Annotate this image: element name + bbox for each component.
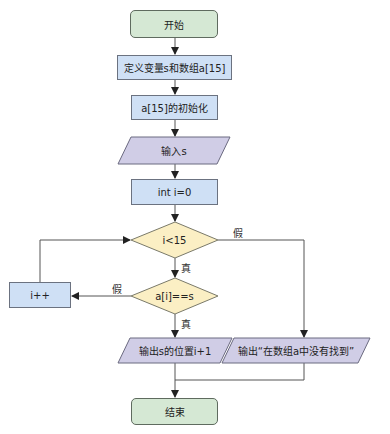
flowchart: 开始 定义变量s和数组a[15] a[15]的初始化 输入s int i=0 i…	[0, 0, 390, 434]
output-notfound-node: 输出“在数组a中没有找到”	[222, 338, 370, 363]
increment-node: i++	[9, 282, 71, 308]
define-variables-node: 定义变量s和数组a[15]	[117, 55, 232, 80]
start-node: 开始	[130, 10, 218, 38]
loop-true-label: 真	[181, 260, 191, 275]
match-condition-node: a[i]==s	[131, 278, 218, 314]
output-found-node: 输出s的位置i+1	[118, 338, 232, 363]
array-init-node: a[15]的初始化	[131, 95, 218, 120]
match-true-label: 真	[181, 316, 191, 331]
assign-i-node: int i=0	[131, 179, 218, 205]
input-s-node: 输入s	[118, 137, 230, 164]
loop-condition-node: i<15	[131, 222, 218, 258]
loop-false-label: 假	[233, 225, 243, 240]
end-node: 结束	[131, 398, 218, 425]
match-false-label: 假	[112, 281, 122, 296]
